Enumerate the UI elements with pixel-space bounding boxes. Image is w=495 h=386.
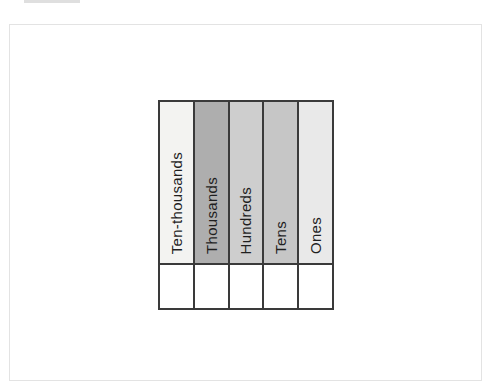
value-cell-tens [264, 265, 297, 308]
header-cell-thousands: Thousands [195, 102, 228, 263]
page: Ten-thousands Thousands Hundreds Tens On… [0, 0, 495, 386]
column-label-tens: Tens [273, 221, 288, 254]
column-label-ones: Ones [308, 217, 323, 254]
value-cell-hundreds [230, 265, 263, 308]
place-value-chart: Ten-thousands Thousands Hundreds Tens On… [158, 100, 334, 310]
column-label-hundreds: Hundreds [238, 187, 253, 254]
value-cell-ten-thousands [160, 265, 193, 308]
value-cell-ones [299, 265, 332, 308]
value-cell-thousands [195, 265, 228, 308]
header-cell-tens: Tens [264, 102, 297, 263]
column-label-ten-thousands: Ten-thousands [169, 152, 184, 254]
column-label-thousands: Thousands [204, 177, 219, 254]
scan-artifact [24, 0, 80, 3]
header-cell-ones: Ones [299, 102, 332, 263]
header-cell-hundreds: Hundreds [230, 102, 263, 263]
header-cell-ten-thousands: Ten-thousands [160, 102, 193, 263]
